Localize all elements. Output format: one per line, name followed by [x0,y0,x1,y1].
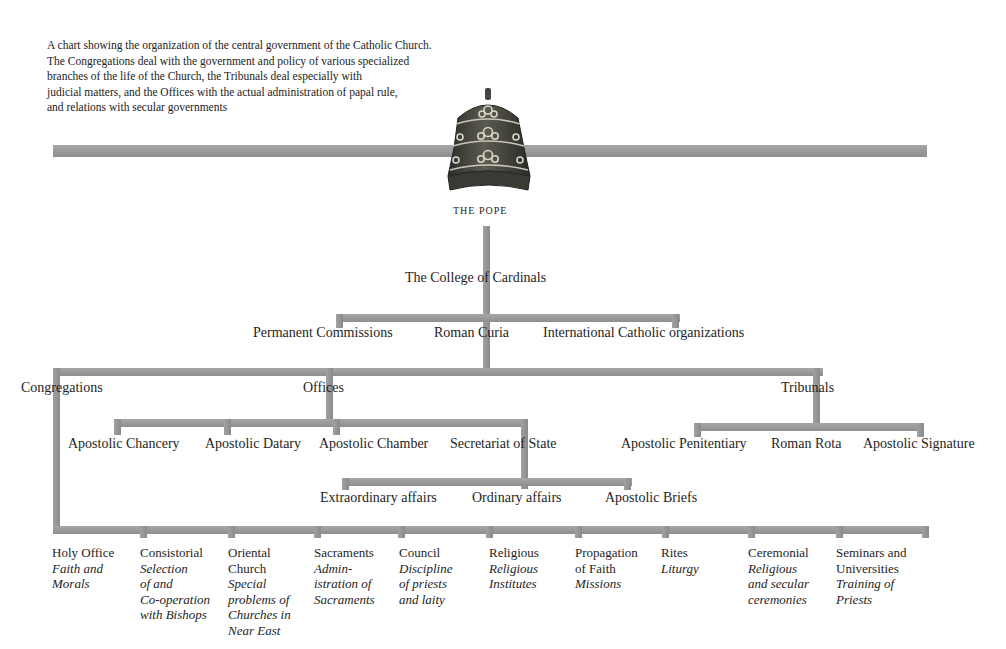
connector [575,526,582,538]
connector [53,368,823,376]
congregation-name: Ceremonial [748,545,809,561]
congregation-name: Religious [489,545,539,561]
connector [342,478,632,486]
connector [140,526,147,538]
connector [486,526,493,538]
connector [813,368,820,424]
connector [398,526,405,538]
congregation-desc: Missions [575,576,638,592]
tribunals-label: Tribunals [781,380,834,396]
roman-curia: Roman Curia [434,325,509,341]
congregations-label: Congregations [21,380,103,396]
congregation-name: Rites [661,545,699,561]
caption-line: and relations with secular governments [47,100,507,116]
caption-line: The Congregations deal with the governme… [47,54,507,70]
congregation-desc: and laity [399,592,452,608]
roman-rota: Roman Rota [771,436,841,452]
congregation-desc: problems of [228,592,291,608]
connector [314,526,321,538]
connector [342,478,349,490]
congregation-propagation-of-faith: Propagation of Faith Missions [575,545,638,592]
root-label: THE POPE [453,205,507,216]
congregation-desc: Morals [52,576,114,592]
congregation-consistorial: Consistorial Selection of and Co-operati… [140,545,210,623]
congregation-seminars-and-universities: Seminars and Universities Training of Pr… [836,545,906,607]
caption-line: A chart showing the organization of the … [47,38,507,54]
congregation-name: Consistorial [140,545,210,561]
connector [694,423,924,431]
congregation-sacraments: Sacraments Admin- istration of Sacrament… [314,545,375,607]
congregation-desc: Near East [228,623,291,639]
connector [228,526,235,538]
congregation-ceremonial: Ceremonial Religious and secular ceremon… [748,545,809,607]
apostolic-chancery: Apostolic Chancery [68,436,180,452]
connector [336,314,680,322]
congregation-name: Seminars and [836,545,906,561]
caption-line: branches of the life of the Church, the … [47,69,507,85]
connector [114,419,121,435]
permanent-commissions: Permanent Commissions [253,325,393,341]
apostolic-chamber: Apostolic Chamber [319,436,428,452]
congregation-desc: Religious [748,561,809,577]
connector [224,419,231,435]
congregation-name: Oriental [228,545,291,561]
congregation-desc: istration of [314,576,375,592]
offices-label: Offices [303,380,344,396]
congregation-desc: Religious [489,561,539,577]
connector [836,526,843,538]
connector [922,526,929,538]
congregation-desc: of and [140,576,210,592]
congregation-desc: Faith and [52,561,114,577]
congregation-name: of Faith [575,561,638,577]
apostolic-penitentiary: Apostolic Penitentiary [621,436,747,452]
ordinary-affairs: Ordinary affairs [472,490,562,506]
congregation-name: Universities [836,561,906,577]
congregation-desc: Sacraments [314,592,375,608]
congregation-desc: with Bishops [140,607,210,623]
congregation-desc: Selection [140,561,210,577]
congregation-desc: Churches in [228,607,291,623]
extraordinary-affairs: Extraordinary affairs [320,490,437,506]
apostolic-datary: Apostolic Datary [205,436,301,452]
congregation-name: Church [228,561,291,577]
papal-tiara-icon [442,86,534,194]
congregation-desc: of priests [399,576,452,592]
congregation-holy-office: Holy Office Faith and Morals [52,545,114,592]
congregation-desc: Co-operation [140,592,210,608]
international-catholic-organizations: International Catholic organizations [543,325,744,341]
connector [748,526,755,538]
congregation-desc: Training of [836,576,906,592]
congregation-desc: Discipline [399,561,452,577]
congregation-name: Council [399,545,452,561]
congregation-name: Sacraments [314,545,375,561]
congregation-council: Council Discipline of priests and laity [399,545,452,607]
congregation-desc: Institutes [489,576,539,592]
college-of-cardinals: The College of Cardinals [405,270,546,286]
connector [333,419,340,435]
congregation-oriental-church: Oriental Church Special problems of Chur… [228,545,291,638]
connector [694,423,701,437]
congregation-name: Propagation [575,545,638,561]
connector [483,226,490,372]
congregation-desc: Admin- [314,561,375,577]
caption-line: judicial matters, and the Offices with t… [47,85,507,101]
congregation-religious: Religious Religious Institutes [489,545,539,592]
congregation-desc: Priests [836,592,906,608]
chart-caption: A chart showing the organization of the … [47,38,507,116]
connector [326,368,333,424]
connector [662,526,669,538]
congregation-rites: Rites Liturgy [661,545,699,576]
congregation-name: Holy Office [52,545,114,561]
secretariat-of-state: Secretariat of State [450,436,557,452]
apostolic-briefs: Apostolic Briefs [605,490,697,506]
congregation-desc: and secular [748,576,809,592]
connector [114,419,528,427]
congregation-desc: Liturgy [661,561,699,577]
connector [917,423,924,437]
connector [624,478,631,490]
apostolic-signature: Apostolic Signature [863,436,975,452]
congregation-desc: Special [228,576,291,592]
congregation-desc: ceremonies [748,592,809,608]
